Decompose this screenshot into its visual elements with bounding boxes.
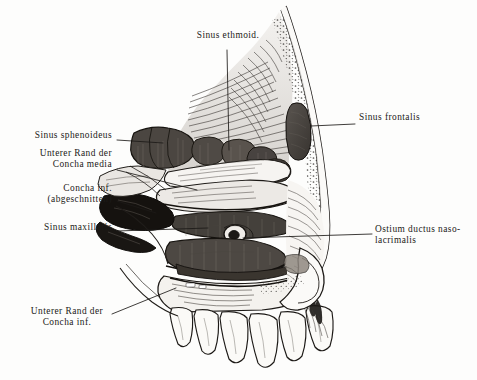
tooth-4 <box>249 314 278 368</box>
label-unterer-rand-concha-inf: Unterer Rand der Concha inf. <box>8 306 126 329</box>
label-sinus-frontalis: Sinus frontalis <box>359 112 477 123</box>
label-unterer-rand-concha-media: Unterer Rand der Concha media <box>0 148 112 171</box>
label-sinus-ethmoid: Sinus ethmoid. <box>158 30 298 41</box>
label-concha-inf-abgeschnitten: Concha inf. (abgeschnitten) <box>0 183 112 206</box>
label-ostium-ductus-nasolacrimalis: Ostium ductus naso- lacrimalis <box>375 224 477 247</box>
teeth-row <box>170 306 333 368</box>
nostril-shadow <box>284 254 309 273</box>
label-sinus-sphenoideus: Sinus sphenoideus <box>0 130 112 141</box>
sinus-frontalis-cavity <box>286 103 311 160</box>
head-profile-group <box>96 6 333 367</box>
anatomical-figure: Sinus ethmoid. Sinus frontalis Sinus sph… <box>0 0 477 380</box>
tooth-5 <box>279 312 306 361</box>
ostium-opening-inner <box>229 231 239 240</box>
tooth-2 <box>194 310 219 355</box>
lower-cheek-contour-2 <box>126 264 160 298</box>
ethmoid-cell-1 <box>192 137 226 165</box>
label-sinus-maxillaris: Sinus maxillaris <box>0 222 112 233</box>
tooth-1 <box>170 308 193 347</box>
sinus-sphenoideus-cavity <box>131 127 195 168</box>
